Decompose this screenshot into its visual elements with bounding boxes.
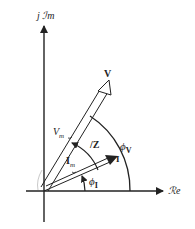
vm-label: Vm xyxy=(53,127,64,140)
phi-i-label: ϕI xyxy=(89,176,98,190)
i-label: I xyxy=(116,155,120,164)
i-phasor xyxy=(44,155,118,191)
angle-z-label: /Z xyxy=(90,140,99,150)
im-tick xyxy=(72,172,76,173)
v-label: V xyxy=(104,69,111,79)
imaginary-axis-label: j ℐm xyxy=(37,11,55,21)
real-axis-label: ℛe xyxy=(168,186,180,196)
angle-phi-i-arc xyxy=(82,176,85,191)
v-phasor xyxy=(41,80,111,191)
im-label: Im xyxy=(66,156,75,169)
phi-v-label: ϕV xyxy=(120,141,131,155)
vm-tick xyxy=(68,137,72,138)
phasor-diagram xyxy=(0,0,195,229)
